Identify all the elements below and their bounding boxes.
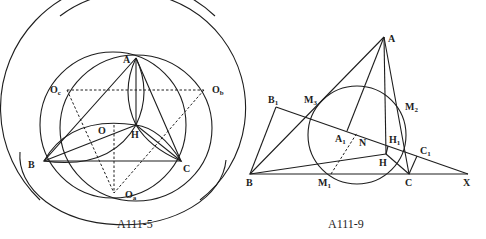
segment-aa1: [347, 37, 384, 131]
dashed-oc-oa: [67, 90, 114, 193]
label-c1: C1: [420, 145, 431, 158]
label-m2: M2: [405, 101, 418, 114]
label-c: C: [183, 163, 190, 174]
segment-bb1: [250, 107, 276, 174]
segment-bh: [250, 154, 386, 174]
label-ob: Ob: [212, 84, 224, 97]
caption-a111-5: A111-5: [117, 217, 153, 231]
segment-cc1: [409, 156, 417, 174]
label-a: A: [123, 54, 131, 65]
label-c: C: [405, 177, 412, 188]
segment-hc: [136, 125, 181, 161]
label-oc: Oc: [50, 84, 61, 97]
label-h: H: [379, 157, 387, 168]
figure-a111-5: A B C H O Oa Ob Oc A111-5: [1, 0, 246, 231]
label-m1: M1: [318, 177, 331, 190]
label-n: N: [359, 137, 367, 148]
caption-a111-9: A111-9: [328, 217, 364, 231]
line-b1-x: [276, 107, 468, 174]
arc-oc: [60, 0, 246, 200]
label-h: H: [131, 129, 139, 140]
label-b: B: [246, 177, 253, 188]
dashed-ob-oa: [114, 90, 204, 193]
label-a: A: [388, 33, 396, 44]
label-x: X: [463, 177, 471, 188]
figure-a111-9: A B C X H N A1 B1 C1 H1 M1 M2 M3 A111-9: [246, 33, 471, 231]
label-b1: B1: [268, 94, 279, 107]
geometry-figures: A B C H O Oa Ob Oc A111-5 A: [0, 0, 486, 239]
label-a1: A1: [335, 133, 346, 146]
label-b: B: [28, 159, 35, 170]
triangle-abc: [44, 58, 181, 161]
label-o: O: [98, 125, 106, 136]
circumcircle: [40, 52, 186, 198]
label-m3: M3: [304, 94, 317, 107]
label-h1: H1: [389, 134, 401, 147]
